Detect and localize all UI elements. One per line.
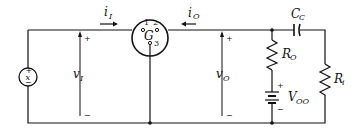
- svg-text:C: C: [299, 13, 305, 22]
- svg-text:2: 2: [153, 18, 158, 27]
- svg-text:O: O: [290, 53, 297, 62]
- svg-text:v: v: [73, 67, 80, 81]
- source-minus: −: [25, 78, 32, 87]
- svg-text:1: 1: [144, 18, 149, 27]
- svg-text:+: +: [277, 81, 284, 90]
- svg-text:G: G: [144, 29, 154, 43]
- circuit-diagram: + x − i I 1 2 3 G i O + − v I + − v O R …: [0, 0, 359, 132]
- svg-text:i: i: [188, 6, 192, 20]
- svg-text:−: −: [226, 111, 233, 120]
- resistor-ri-icon: [320, 64, 330, 98]
- capacitor-cc-icon: [294, 24, 300, 36]
- svg-text:OO: OO: [296, 97, 310, 106]
- svg-text:i: i: [342, 78, 345, 87]
- battery-icon: [265, 92, 279, 103]
- wire-top-right: [168, 30, 325, 64]
- svg-text:I: I: [79, 74, 84, 83]
- svg-text:+: +: [226, 34, 233, 43]
- resistor-ro-icon: [267, 40, 277, 70]
- svg-text:i: i: [104, 5, 108, 19]
- svg-text:+: +: [84, 34, 91, 43]
- svg-text:−: −: [277, 105, 284, 114]
- svg-text:3: 3: [154, 39, 159, 48]
- svg-text:O: O: [193, 12, 200, 21]
- svg-text:−: −: [84, 111, 91, 120]
- svg-text:v: v: [216, 67, 223, 81]
- svg-text:I: I: [108, 12, 113, 21]
- svg-text:O: O: [223, 74, 230, 83]
